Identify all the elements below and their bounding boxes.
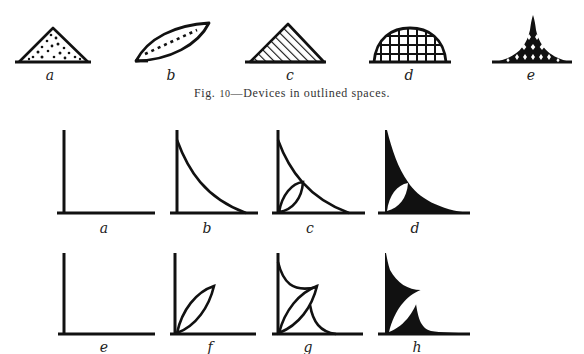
figure-top-c: c <box>245 24 326 83</box>
label-top-a: a <box>46 67 54 83</box>
figure-bot-g: g <box>272 253 363 354</box>
figure-caption: Fig.10—Devices in outlined spaces. <box>194 86 390 100</box>
caption-text: —Devices in outlined spaces. <box>230 86 390 100</box>
label-top-d: d <box>405 67 414 83</box>
figure-bot-h: h <box>378 253 470 354</box>
label-bot-e: e <box>100 339 108 354</box>
label-bot-f: f <box>206 339 215 354</box>
label-bot-h: h <box>412 339 421 354</box>
label-mid-b: b <box>203 220 212 236</box>
figure-top-e: e <box>492 15 572 83</box>
figure-top-b: b <box>135 23 209 83</box>
caption-number: 10 <box>219 88 230 99</box>
figure-mid-b: b <box>170 130 258 236</box>
label-top-e: e <box>527 67 535 83</box>
figure-top-d: d <box>369 20 451 83</box>
label-mid-a: a <box>100 220 108 236</box>
figure-canvas: a b c d <box>0 0 584 354</box>
figure-bot-e: e <box>58 253 155 354</box>
label-top-b: b <box>167 67 176 83</box>
figure-mid-d: d <box>378 130 470 236</box>
figure-bot-f: f <box>170 253 256 354</box>
label-mid-d: d <box>411 220 420 236</box>
label-bot-g: g <box>304 339 313 354</box>
figure-mid-c: c <box>272 130 365 236</box>
label-mid-c: c <box>306 220 314 236</box>
figure-top-a: a <box>15 28 91 83</box>
label-top-c: c <box>286 67 294 83</box>
caption-prefix: Fig. <box>194 86 215 100</box>
figure-mid-a: a <box>57 130 155 236</box>
